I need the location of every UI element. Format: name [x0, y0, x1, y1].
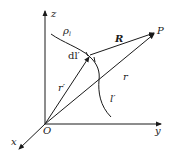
source-position-vector [45, 57, 89, 124]
charge-density-label: ρl [62, 25, 71, 37]
field-position-label: r [123, 71, 129, 82]
line-charge-curve [51, 34, 111, 117]
z-axis-label: z [50, 8, 57, 19]
field-position-vector [45, 34, 154, 124]
x-axis [19, 124, 45, 149]
separation-vector-label: R [114, 33, 123, 44]
line-source-label: l′ [110, 93, 116, 104]
source-position-label: r′ [58, 82, 66, 93]
origin-label: O [43, 125, 51, 136]
x-axis-label: x [11, 136, 17, 147]
field-point-label: P [156, 25, 164, 36]
electrostatics-line-charge-diagram: z y x O ρl dl′ R P r′ r l′ [0, 0, 171, 155]
y-axis-label: y [154, 125, 161, 136]
line-element-label: dl′ [68, 50, 81, 61]
